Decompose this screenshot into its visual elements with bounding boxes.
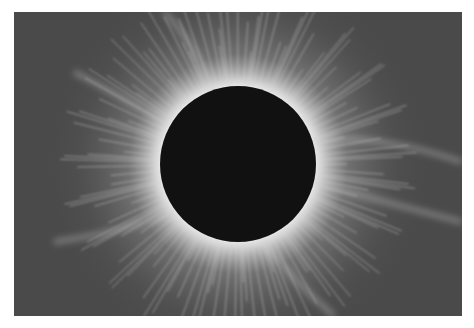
moon-disk — [160, 86, 316, 242]
eclipse-graphic — [14, 12, 462, 316]
eclipse-photo — [14, 12, 462, 316]
